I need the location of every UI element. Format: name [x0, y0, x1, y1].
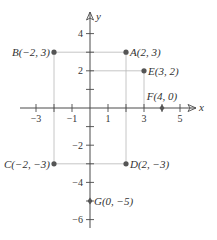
point-e-label: E(3, 2) [147, 65, 179, 78]
coordinate-plane: xy −3−113542−2−4−6 A(2, 3)B(−2, 3)C(−2, … [0, 0, 217, 240]
x-tick-label: 1 [106, 113, 111, 124]
point-a-label: A(2, 3) [129, 46, 161, 59]
point-c-marker [51, 161, 56, 166]
x-tick-label: 5 [178, 113, 183, 124]
point-g-label: G(0, −5) [94, 195, 134, 208]
y-tick-label: 4 [78, 28, 83, 39]
y-tick-label: −2 [72, 140, 83, 151]
x-tick-label: −1 [67, 113, 78, 124]
point-f-marker [160, 105, 165, 112]
y-axis-label: y [95, 10, 101, 22]
x-axis-label: x [198, 101, 204, 113]
point-b-label: B(−2, 3) [12, 46, 50, 59]
point-a-marker [123, 50, 128, 55]
point-g-marker [88, 198, 93, 205]
point-d-label: D(2, −3) [129, 158, 170, 171]
y-tick-label: 2 [78, 65, 83, 76]
x-tick-label: 3 [142, 113, 147, 124]
point-c-label: C(−2, −3) [4, 158, 50, 171]
y-tick-label: −4 [72, 177, 83, 188]
x-tick-label: −3 [31, 113, 42, 124]
point-b-marker [51, 50, 56, 55]
point-f-label: F(4, 0) [146, 90, 178, 103]
point-e-marker [141, 68, 146, 73]
point-d-marker [123, 161, 128, 166]
y-tick-label: −6 [72, 214, 83, 225]
